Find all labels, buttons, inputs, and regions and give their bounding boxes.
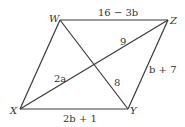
edge-label-zy: b + 7 <box>149 64 177 75</box>
parallelogram-diagram: W Z Y X 16 − 3b b + 7 2b + 1 9 8 2a <box>0 0 185 127</box>
diagonal-label-y-center: 8 <box>114 77 120 88</box>
diagonal-wy <box>60 20 128 109</box>
diagonal-label-z-center: 9 <box>120 36 126 47</box>
diagonal-label-x-center: 2a <box>54 73 66 84</box>
vertex-label-x: X <box>9 105 18 116</box>
side-xw <box>20 20 60 109</box>
vertex-label-y: Y <box>130 105 138 116</box>
vertex-label-w: W <box>49 13 60 24</box>
edge-label-wz: 16 − 3b <box>98 7 138 18</box>
vertex-label-z: Z <box>169 15 178 26</box>
edge-label-xy: 2b + 1 <box>63 113 97 124</box>
